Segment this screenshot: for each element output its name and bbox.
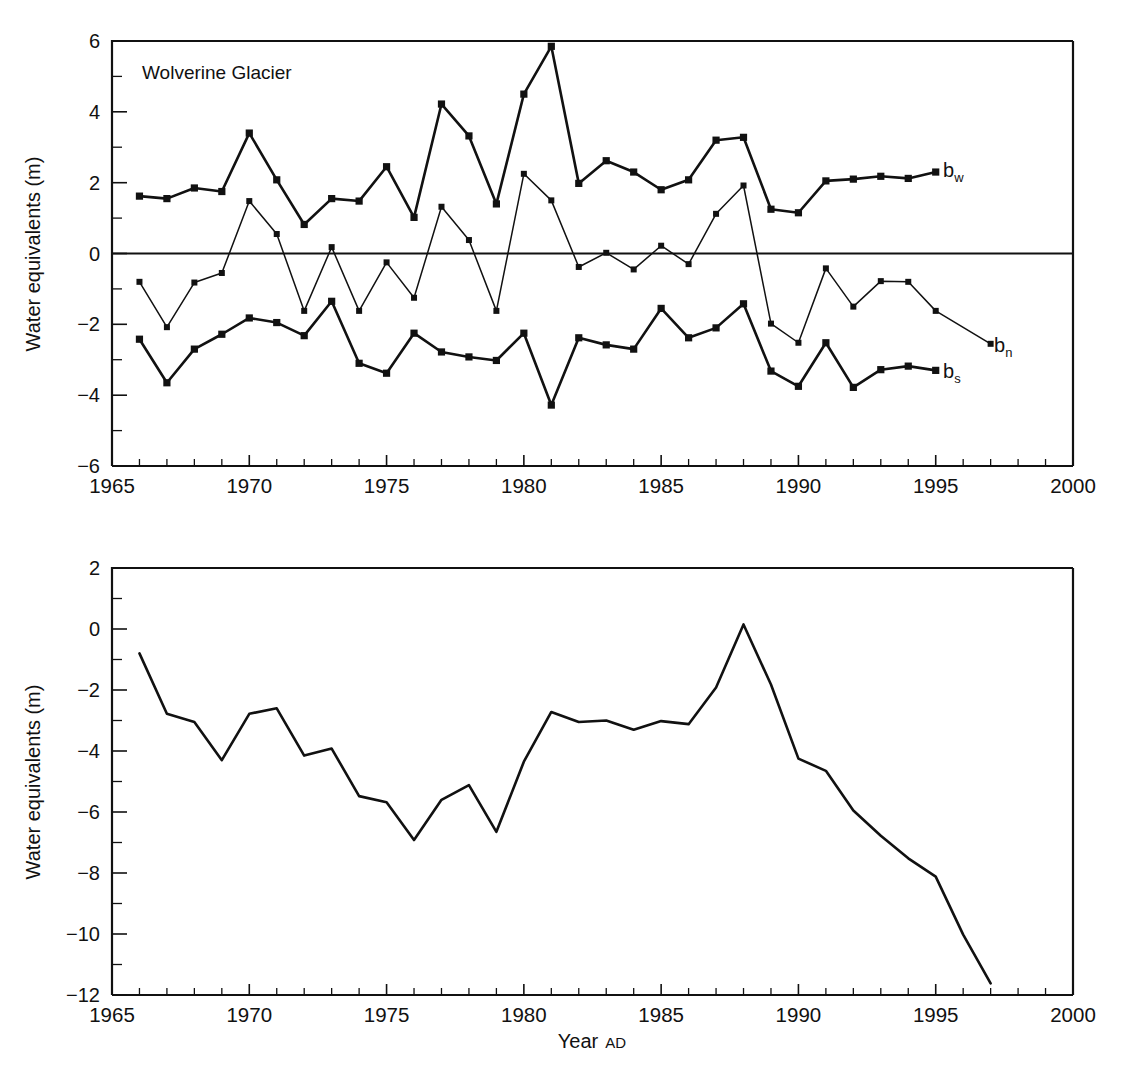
series-label-bw-base: b (943, 159, 954, 181)
data-point-marker (356, 308, 362, 314)
data-point-marker (411, 295, 417, 301)
data-point-marker (631, 266, 637, 272)
data-point-marker (438, 348, 445, 355)
xtick-label: 2000 (1050, 474, 1096, 497)
data-point-marker (548, 197, 554, 203)
xtick-label: 2000 (1050, 1003, 1096, 1026)
bottom-panel-y-tick-labels: −12−10−8−6−4−202 (66, 557, 100, 1006)
series-label-bs-base: b (943, 360, 954, 382)
data-point-marker (163, 379, 170, 386)
data-point-marker (878, 278, 884, 284)
data-point-marker (191, 184, 198, 191)
data-point-marker (713, 211, 719, 217)
data-point-marker (685, 334, 692, 341)
xtick-label: 1985 (638, 474, 684, 497)
series-line-cumulative (139, 624, 990, 983)
data-point-marker (246, 129, 253, 136)
data-point-marker (328, 298, 335, 305)
top-panel-y-axis-title: Water equivalents (m) (22, 157, 44, 352)
ytick-label: −10 (66, 923, 100, 945)
data-point-marker (822, 177, 829, 184)
series-line-b_s (139, 301, 935, 405)
bottom-panel-series-group (139, 624, 990, 983)
series-label-bw-sub: w (953, 170, 964, 185)
data-point-marker (465, 353, 472, 360)
annual-balance-panel: 6 4 2 0 −2 −4 −6 Water equivalents (m) 1… (22, 30, 1096, 497)
data-point-marker (164, 324, 170, 330)
data-point-marker (465, 132, 472, 139)
series-label-bw: bw (943, 159, 964, 185)
data-point-marker (823, 265, 829, 271)
data-point-marker (520, 91, 527, 98)
data-point-marker (767, 367, 774, 374)
data-point-marker (658, 243, 664, 249)
data-point-marker (548, 43, 555, 50)
data-point-marker (410, 214, 417, 221)
top-panel-y-tick-labels: 6 4 2 0 −2 −4 −6 (77, 30, 100, 477)
data-point-marker (712, 324, 719, 331)
bottom-panel-y-ticks (112, 568, 127, 995)
data-point-marker (410, 330, 417, 337)
data-point-marker (356, 360, 363, 367)
data-point-marker (466, 237, 472, 243)
x-axis-title-main: Year (558, 1030, 599, 1052)
bottom-panel-frame-left-top (112, 568, 1073, 995)
data-point-marker (658, 305, 665, 312)
ytick-label: −4 (77, 384, 100, 406)
ytick-label: 0 (89, 243, 100, 265)
ytick-label: −2 (77, 313, 100, 335)
data-point-marker (493, 200, 500, 207)
xtick-label: 1985 (638, 1003, 684, 1026)
svg-text:bn: bn (994, 334, 1012, 360)
series-line-b_n (139, 174, 990, 344)
xtick-label: 1975 (364, 1003, 410, 1026)
data-point-marker (136, 193, 143, 200)
x-axis-title-era: AD (605, 1034, 626, 1051)
data-point-marker (548, 401, 555, 408)
data-point-marker (658, 186, 665, 193)
ytick-label: 6 (89, 30, 100, 52)
data-point-marker (712, 137, 719, 144)
data-point-marker (933, 308, 939, 314)
bottom-panel-y-axis-title: Water equivalents (m) (22, 685, 44, 880)
data-point-marker (384, 259, 390, 265)
bottom-panel-x-axis-title: YearAD (558, 1030, 626, 1052)
data-point-marker (575, 180, 582, 187)
figure-root: 6 4 2 0 −2 −4 −6 Water equivalents (m) 1… (0, 0, 1123, 1068)
data-point-marker (822, 339, 829, 346)
data-point-marker (603, 341, 610, 348)
data-point-marker (795, 383, 802, 390)
data-point-marker (383, 163, 390, 170)
data-point-marker (328, 195, 335, 202)
data-point-marker (603, 157, 610, 164)
data-point-marker (301, 332, 308, 339)
series-label-bs-sub: s (954, 371, 961, 386)
xtick-label: 1990 (776, 474, 822, 497)
data-point-marker (301, 308, 307, 314)
data-point-marker (438, 204, 444, 210)
data-point-marker (630, 346, 637, 353)
data-point-marker (850, 384, 857, 391)
glacier-mass-balance-figure: 6 4 2 0 −2 −4 −6 Water equivalents (m) 1… (0, 0, 1123, 1068)
ytick-label: −4 (77, 740, 100, 762)
top-panel-y-major-ticks (112, 41, 127, 466)
data-point-marker (329, 244, 335, 250)
panel-title: Wolverine Glacier (142, 62, 292, 83)
data-point-marker (246, 314, 253, 321)
data-point-marker (218, 188, 225, 195)
data-point-marker (576, 264, 582, 270)
xtick-label: 1975 (364, 474, 410, 497)
data-point-marker (521, 171, 527, 177)
data-point-marker (850, 304, 856, 310)
xtick-label: 1965 (89, 474, 135, 497)
data-point-marker (274, 231, 280, 237)
data-point-marker (795, 340, 801, 346)
ytick-label: −2 (77, 679, 100, 701)
xtick-label: 1965 (89, 1003, 135, 1026)
xtick-label: 1980 (501, 1003, 547, 1026)
ytick-label: 4 (89, 101, 100, 123)
series-label-bs: bs (943, 360, 961, 386)
data-point-marker (905, 363, 912, 370)
ytick-label: 2 (89, 172, 100, 194)
ytick-label: 2 (89, 557, 100, 579)
